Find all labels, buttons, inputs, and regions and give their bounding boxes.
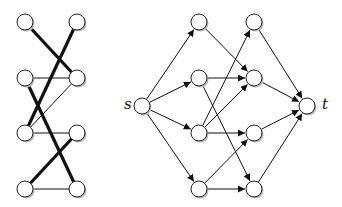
node-A2 bbox=[191, 125, 207, 141]
node-R2 bbox=[69, 125, 85, 141]
node-L0 bbox=[17, 14, 33, 30]
node-L3 bbox=[17, 181, 33, 197]
arc-B0-t bbox=[258, 29, 302, 99]
node-B2 bbox=[246, 125, 262, 141]
node-A0 bbox=[191, 14, 207, 30]
arc-A3-B2 bbox=[205, 139, 248, 183]
arc-B2-t bbox=[261, 110, 299, 129]
node-B0 bbox=[246, 14, 262, 30]
diagram-canvas bbox=[0, 0, 342, 207]
sink-label: t bbox=[322, 95, 328, 113]
arc-s-A3 bbox=[147, 113, 194, 182]
matching-nodes bbox=[17, 14, 87, 199]
arc-B3-t bbox=[258, 114, 302, 183]
node-R3 bbox=[69, 181, 85, 197]
matched-edge-L3-R2 bbox=[25, 133, 77, 189]
node-B1 bbox=[246, 70, 262, 86]
node-B3 bbox=[246, 181, 262, 197]
node-A3 bbox=[191, 181, 207, 197]
arc-s-A0 bbox=[146, 29, 193, 99]
source-label: s bbox=[124, 95, 132, 113]
node-t bbox=[299, 98, 315, 114]
arc-A0-B1 bbox=[205, 28, 248, 72]
node-L1 bbox=[17, 70, 33, 86]
node-L2 bbox=[17, 125, 33, 141]
matching-edges bbox=[25, 22, 77, 189]
edge-L2-R1 bbox=[25, 78, 77, 133]
arc-s-A1 bbox=[149, 82, 191, 103]
node-R1 bbox=[69, 70, 85, 86]
flow-edges bbox=[146, 28, 302, 189]
node-R0 bbox=[69, 14, 85, 30]
node-s bbox=[134, 98, 150, 114]
matched-edge-L0-R1 bbox=[25, 22, 77, 78]
node-A1 bbox=[191, 70, 207, 86]
arc-A2-B1 bbox=[205, 84, 248, 127]
